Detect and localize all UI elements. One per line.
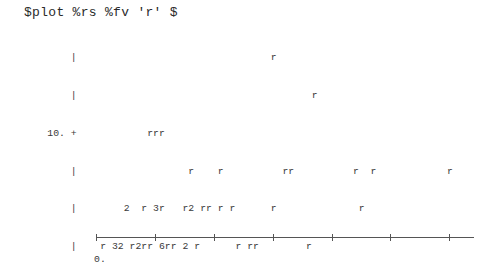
ascii-scatter-plot: | r | r 10. + rrr | r r rr r r r [12, 27, 453, 267]
x-label: 0. [94, 254, 106, 265]
command-title: $plot %rs %fv 'r' $ [24, 5, 178, 20]
x-tick-10 [155, 234, 156, 241]
plot-row: | r [12, 90, 453, 103]
x-axis [96, 234, 474, 240]
x-tick-0 [96, 234, 97, 241]
plot-row: | r [12, 52, 453, 65]
x-tick-40 [332, 234, 333, 241]
x-tick-60 [449, 234, 450, 241]
plot-row-y-10: 10. + rrr [12, 128, 453, 141]
x-tick-50 [390, 234, 391, 241]
x-axis-line [96, 237, 474, 238]
x-tick-30 [273, 234, 274, 241]
plot-row: | 2 r 3r r2 rr r r r r [12, 203, 453, 216]
x-tick-20 [214, 234, 215, 241]
x-axis-labels: 0. 10. 20. 30. 40. 50. 60. [0, 243, 503, 257]
plot-row: | r r rr r r r [12, 166, 453, 179]
